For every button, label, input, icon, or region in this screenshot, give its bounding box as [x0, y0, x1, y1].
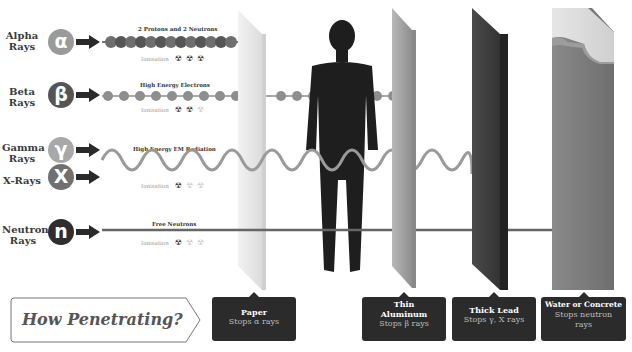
paper-subtitle: Stops α rays [212, 317, 296, 327]
lead-title: Thick Lead [452, 297, 536, 315]
concrete-subtitle: Stops neutron rays [554, 310, 614, 330]
aluminum-barrier [392, 8, 416, 288]
concrete-barrier [552, 8, 614, 290]
aluminum-title: Thin Aluminum [374, 297, 434, 319]
paper-info-box: Paper Stops α rays [212, 297, 296, 341]
concrete-title: Water or Concrete [541, 297, 626, 310]
lead-info-box: Thick Lead Stops γ, X rays [452, 297, 536, 341]
alpha-particles [102, 36, 250, 48]
human-silhouette-icon [306, 20, 378, 272]
concrete-info-box: Water or Concrete Stops neutron rays [541, 297, 626, 341]
paper-barrier [238, 10, 266, 290]
lead-subtitle: Stops γ, X rays [452, 315, 536, 325]
aluminum-info-box: Thin Aluminum Stops β rays [362, 297, 446, 341]
lead-barrier [472, 8, 508, 290]
aluminum-subtitle: Stops β rays [362, 319, 446, 329]
paper-title: Paper [212, 297, 296, 317]
gamma-wave [102, 150, 472, 174]
question-title: How Penetrating? [22, 310, 183, 329]
